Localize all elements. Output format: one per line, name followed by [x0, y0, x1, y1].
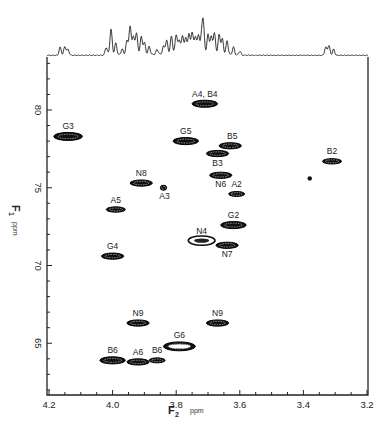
peak-label: N7	[222, 249, 233, 259]
peak-label: N8	[136, 168, 147, 178]
projection-spectrum	[47, 18, 368, 56]
svg-text:1: 1	[8, 212, 15, 216]
cross-peak: N9	[206, 308, 228, 326]
cross-peak: N4	[188, 226, 215, 246]
peak-label: A2	[231, 179, 242, 189]
peak-label: G2	[228, 210, 240, 220]
svg-text:75: 75	[33, 182, 44, 193]
svg-text:65: 65	[33, 338, 44, 349]
peak-label: B6	[152, 345, 163, 355]
y-axis-title: F 1 ppm	[8, 205, 22, 236]
cross-peak: A6	[127, 347, 149, 365]
peak-label: A6	[133, 347, 144, 357]
peak-label: B3	[212, 158, 223, 168]
cross-peak: B3	[206, 150, 228, 167]
peak-label: B5	[227, 131, 238, 141]
svg-text:F: F	[168, 404, 175, 416]
peak-label: G4	[107, 241, 119, 251]
svg-text:ppm: ppm	[11, 222, 19, 236]
cross-peak: A3	[159, 185, 170, 201]
peak-label: N6	[215, 179, 226, 189]
cross-peak: N9	[127, 308, 149, 326]
peak-label: A4, B4	[192, 89, 218, 99]
svg-text:70: 70	[33, 260, 44, 271]
svg-text:3.6: 3.6	[233, 399, 246, 410]
y-axis-ticks: 80757065	[33, 63, 52, 390]
cross-peak: G3	[54, 121, 83, 140]
cross-peak: G5	[173, 126, 198, 145]
artifact-dot	[308, 176, 312, 180]
svg-text:4.0: 4.0	[106, 399, 119, 410]
peak-label: A3	[159, 191, 170, 201]
svg-text:3.4: 3.4	[297, 399, 310, 410]
svg-text:4.2: 4.2	[42, 399, 55, 410]
cross-peak: B6	[100, 345, 125, 364]
svg-text:2: 2	[175, 411, 179, 418]
peak-label: G6	[174, 330, 186, 340]
peak-label: G5	[180, 126, 192, 136]
svg-text:F: F	[10, 205, 22, 212]
peak-label: B6	[107, 345, 118, 355]
cross-peak: G2	[221, 210, 246, 229]
cross-peak: B2	[322, 146, 341, 164]
cross-peaks: A4, B4G3G5B5B3B2N6N8A3A2A5G2N4N7G4N9N9G6…	[54, 89, 342, 365]
cross-peak: N7	[216, 242, 238, 259]
cross-peak: N8	[130, 168, 152, 186]
cross-peak: B5	[219, 131, 241, 149]
cross-peak: B6	[149, 345, 165, 363]
peak-label: A5	[111, 195, 122, 205]
svg-text:80: 80	[33, 105, 44, 116]
cross-peak: A2	[229, 179, 245, 197]
peak-label: N9	[212, 308, 223, 318]
peak-label: N9	[133, 308, 144, 318]
x-axis-title: F 2 ppm	[168, 404, 204, 418]
peak-label: G3	[62, 121, 74, 131]
cross-peak: G4	[101, 241, 123, 259]
cross-peak: A5	[106, 195, 125, 213]
cross-peak: N6	[210, 172, 232, 189]
peak-label: B2	[327, 146, 338, 156]
cross-peak: G6	[163, 330, 195, 350]
peak-label: N4	[196, 226, 207, 236]
svg-text:ppm: ppm	[190, 407, 204, 415]
cross-peak: A4, B4	[192, 89, 218, 108]
nmr-2d-spectrum: 4.24.03.83.63.43.2 80757065 A4, B4G3G5B5…	[0, 0, 383, 431]
svg-text:3.2: 3.2	[360, 399, 373, 410]
x-axis-ticks: 4.24.03.83.63.43.2	[42, 390, 373, 410]
